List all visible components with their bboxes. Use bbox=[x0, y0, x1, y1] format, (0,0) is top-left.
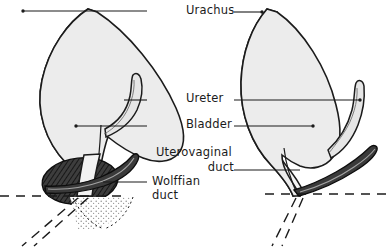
left-stippled-sinus bbox=[70, 197, 133, 230]
anatomical-figure: Urachus Ureter Bladder Uterovaginal duct… bbox=[0, 0, 389, 251]
label-wolffian-duct-line1: Wolffian bbox=[152, 175, 200, 188]
right-bladder bbox=[241, 9, 340, 196]
label-wolffian-duct-line2: duct bbox=[152, 189, 178, 202]
label-urachus: Urachus bbox=[186, 4, 234, 17]
right-ureter-leader-dot bbox=[358, 98, 361, 101]
label-bladder: Bladder bbox=[186, 118, 232, 131]
left-projection-dash-1 bbox=[22, 198, 78, 246]
label-uterovaginal-duct-line2: duct bbox=[156, 161, 234, 174]
left-bladder-leader-dot bbox=[74, 124, 77, 127]
left-panel bbox=[0, 9, 184, 246]
right-bladder-leader-dot bbox=[311, 124, 314, 127]
left-urachus-leader-dot bbox=[21, 9, 24, 12]
label-ureter: Ureter bbox=[186, 92, 223, 105]
right-panel bbox=[234, 9, 389, 246]
right-urachus-leader-dot bbox=[260, 10, 263, 13]
label-uterovaginal-duct-line1: Uterovaginal bbox=[156, 146, 232, 159]
